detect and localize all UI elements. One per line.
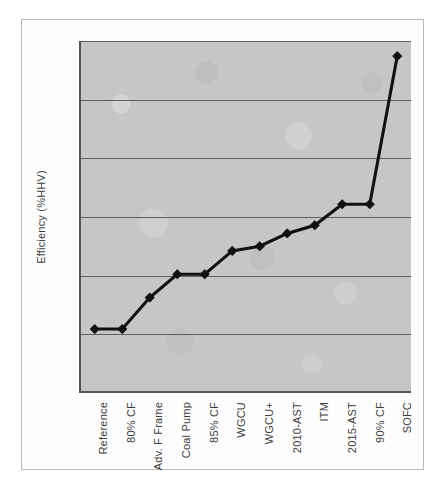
data-point-wgcu xyxy=(255,242,264,251)
data-point-reference xyxy=(90,324,99,333)
x-axis-label-2010-ast: 2010-AST xyxy=(291,402,303,453)
y-axis-title-label: Efficiency (%HHV) xyxy=(35,170,47,264)
x-axis-label-2015-ast: 2015-AST xyxy=(346,402,358,453)
plot-area: 60%55%50%45%40%35%30% xyxy=(79,41,411,393)
y-axis-title: Efficiency (%HHV) xyxy=(33,41,49,393)
x-axis-label-sofc: SOFC xyxy=(401,402,413,433)
x-axis-label-wgcu: WGCU+ xyxy=(263,402,275,444)
data-point-90-cf xyxy=(365,200,374,209)
x-axis-label-adv-f-frame: Adv. F Frame xyxy=(152,402,164,470)
x-axis-label-90-cf: 90% CF xyxy=(374,402,386,443)
data-point-2010-ast xyxy=(283,229,292,238)
x-axis-labels: Reference80% CFAdv. F FrameCoal Pump85% … xyxy=(79,393,411,471)
figure-caption xyxy=(8,493,278,504)
x-axis-label-itm: ITM xyxy=(318,402,330,422)
series-line xyxy=(95,56,397,329)
x-axis-label-85-cf: 85% CF xyxy=(208,402,220,443)
chart-card: Efficiency (%HHV) 60%55%50%45%40%35%30% … xyxy=(21,19,424,470)
efficiency-series xyxy=(81,41,411,391)
x-axis-label-80-cf: 80% CF xyxy=(125,402,137,443)
x-axis-label-wgcu: WGCU xyxy=(235,402,247,438)
x-axis-label-coal-pump: Coal Pump xyxy=(180,402,192,458)
data-point-sofc xyxy=(393,52,402,61)
x-axis-label-reference: Reference xyxy=(97,402,109,455)
